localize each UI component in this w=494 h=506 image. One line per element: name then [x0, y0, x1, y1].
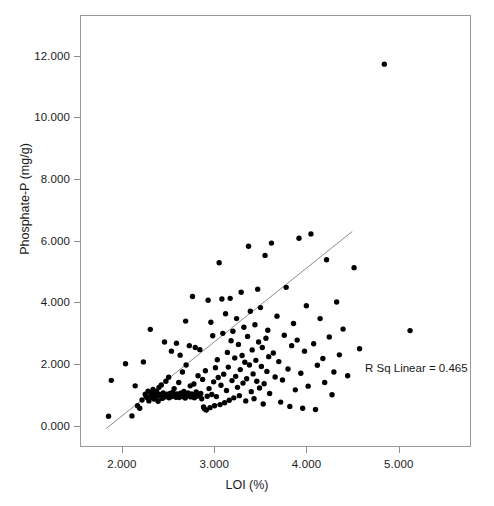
- data-point: [285, 366, 290, 371]
- data-point: [216, 375, 221, 380]
- data-point: [166, 375, 171, 380]
- x-axis-title: LOI (%): [0, 478, 494, 492]
- data-point: [229, 378, 234, 383]
- data-point: [245, 334, 250, 339]
- data-point: [174, 340, 179, 345]
- data-point: [294, 337, 299, 342]
- data-point: [225, 350, 230, 355]
- data-point: [407, 328, 412, 333]
- data-point: [169, 348, 174, 353]
- data-point: [213, 365, 218, 370]
- data-point: [329, 392, 334, 397]
- y-tick-label: 2.000: [41, 358, 70, 370]
- data-point: [203, 368, 208, 373]
- x-tick-label: 2.000: [107, 458, 136, 470]
- data-point: [208, 320, 213, 325]
- data-point: [236, 342, 241, 347]
- data-point: [276, 359, 281, 364]
- data-point: [280, 377, 285, 382]
- x-tick-mark: [214, 447, 215, 453]
- data-point: [261, 381, 266, 386]
- data-point: [241, 325, 246, 330]
- data-point: [258, 305, 263, 310]
- data-point: [283, 285, 288, 290]
- data-point: [252, 322, 257, 327]
- data-point: [212, 403, 217, 408]
- data-point: [311, 341, 316, 346]
- data-point: [305, 383, 310, 388]
- data-point: [322, 380, 327, 385]
- data-point: [193, 345, 198, 350]
- y-tick-label: 10.000: [34, 111, 70, 123]
- data-point: [235, 385, 240, 390]
- data-point: [137, 406, 142, 411]
- data-point: [244, 376, 249, 381]
- data-point: [256, 339, 261, 344]
- data-point: [327, 334, 332, 339]
- x-tick-label: 3.000: [200, 458, 229, 470]
- data-point: [228, 338, 233, 343]
- data-point: [334, 299, 339, 304]
- data-point: [262, 253, 267, 258]
- data-point: [289, 343, 294, 348]
- data-point: [302, 348, 307, 353]
- data-point: [227, 398, 232, 403]
- data-point: [351, 265, 356, 270]
- data-point: [132, 383, 137, 388]
- x-tick-label: 5.000: [384, 458, 413, 470]
- data-point: [171, 386, 176, 391]
- data-point: [224, 388, 229, 393]
- data-point: [259, 364, 264, 369]
- data-point: [304, 303, 309, 308]
- data-point: [296, 236, 301, 241]
- data-point: [242, 360, 247, 365]
- data-point: [234, 316, 239, 321]
- data-point: [123, 361, 128, 366]
- data-point: [247, 362, 252, 367]
- data-point: [315, 363, 320, 368]
- data-point: [205, 298, 210, 303]
- data-point: [206, 386, 211, 391]
- data-point: [159, 382, 164, 387]
- data-point: [216, 260, 221, 265]
- scatter-plot-figure: Phosphate-P (mg/g) 0.0002.0004.0006.0008…: [0, 0, 494, 506]
- data-point: [345, 373, 350, 378]
- plot-area: [80, 15, 471, 447]
- data-point: [298, 371, 303, 376]
- data-point: [317, 316, 322, 321]
- r-squared-annotation: R Sq Linear = 0.465: [365, 362, 468, 374]
- data-point: [278, 399, 283, 404]
- data-point: [109, 378, 114, 383]
- data-point: [141, 359, 146, 364]
- data-point: [187, 343, 192, 348]
- data-point: [217, 402, 222, 407]
- y-tick-label: 8.000: [41, 173, 70, 185]
- y-tick-label: 0.000: [41, 420, 70, 432]
- data-point: [272, 374, 277, 379]
- y-tick-label: 4.000: [41, 296, 70, 308]
- data-point: [207, 405, 212, 410]
- data-point: [237, 393, 242, 398]
- data-point: [253, 358, 258, 363]
- data-point: [266, 354, 271, 359]
- data-point: [251, 396, 256, 401]
- data-point: [238, 290, 243, 295]
- data-point: [226, 364, 231, 369]
- x-tick-label: 4.000: [292, 458, 321, 470]
- data-point: [267, 391, 272, 396]
- data-point: [183, 318, 188, 323]
- y-axis-title: Phosphate-P (mg/g): [18, 104, 32, 294]
- data-point: [177, 352, 182, 357]
- data-point: [269, 240, 274, 245]
- data-point: [255, 286, 260, 291]
- data-point: [209, 392, 214, 397]
- data-point: [300, 406, 305, 411]
- data-point: [261, 401, 266, 406]
- x-tick-mark: [122, 447, 123, 453]
- data-point: [250, 347, 255, 352]
- data-point: [313, 407, 318, 412]
- data-point: [238, 367, 243, 372]
- data-point: [308, 231, 313, 236]
- data-point: [106, 414, 111, 419]
- data-point: [180, 369, 185, 374]
